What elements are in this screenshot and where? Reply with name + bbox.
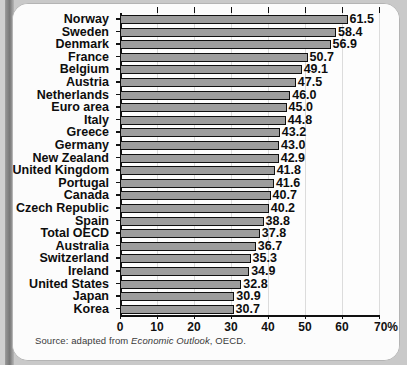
chart-row: Euro area45.0 xyxy=(13,101,400,114)
x-axis-tick-label: 0 xyxy=(117,320,124,334)
bar xyxy=(120,305,234,314)
bar xyxy=(120,229,260,238)
bar xyxy=(120,15,348,24)
x-axis-tick-label: 10 xyxy=(150,320,163,334)
bar xyxy=(120,53,308,62)
chart-row: Czech Republic40.2 xyxy=(13,202,400,215)
figure-card: 010203040506070%Norway61.5Sweden58.4Denm… xyxy=(12,3,400,361)
bar xyxy=(120,154,279,163)
bar xyxy=(120,191,271,200)
bar xyxy=(120,91,290,100)
bar xyxy=(120,280,241,289)
source-publication: Economic Outlook xyxy=(131,335,210,346)
bar xyxy=(120,103,287,112)
bar-chart: 010203040506070%Norway61.5Sweden58.4Denm… xyxy=(13,4,400,361)
bar xyxy=(120,65,302,74)
chart-row: Japan30.9 xyxy=(13,290,400,303)
bar xyxy=(120,217,264,226)
chart-row: Korea30.7 xyxy=(13,303,400,316)
x-axis-tick-label: 50 xyxy=(298,320,311,334)
source-prefix: Source: adapted from xyxy=(35,335,131,346)
bar xyxy=(120,28,336,37)
bar xyxy=(120,40,331,49)
source-suffix: , OECD. xyxy=(210,335,246,346)
bar xyxy=(120,292,234,301)
x-axis-tick-label: 60 xyxy=(335,320,348,334)
bar xyxy=(120,267,249,276)
x-axis-tick-label: 20 xyxy=(187,320,200,334)
bar-value-label: 30.7 xyxy=(236,303,260,316)
bar xyxy=(120,116,286,125)
bar xyxy=(120,128,280,137)
page: 010203040506070%Norway61.5Sweden58.4Denm… xyxy=(0,0,407,365)
category-label: Korea xyxy=(12,303,109,316)
bar xyxy=(120,204,269,213)
page-edge-highlight xyxy=(0,0,5,365)
bar xyxy=(120,78,296,87)
source-note: Source: adapted from Economic Outlook, O… xyxy=(35,335,246,346)
x-axis-tick-label: 40 xyxy=(261,320,274,334)
bar xyxy=(120,166,275,175)
x-axis-tick-label: 30 xyxy=(224,320,237,334)
chart-row: United States32.8 xyxy=(13,278,400,291)
figure-card-inner: 010203040506070%Norway61.5Sweden58.4Denm… xyxy=(13,4,399,360)
bar xyxy=(120,179,274,188)
x-axis-tick-label: 70% xyxy=(374,320,398,334)
bar xyxy=(120,254,251,263)
bar-value-label: 56.9 xyxy=(333,38,357,51)
bar xyxy=(120,141,279,150)
bar xyxy=(120,242,256,251)
